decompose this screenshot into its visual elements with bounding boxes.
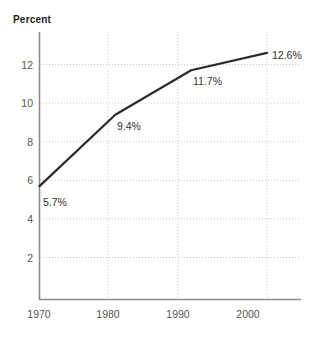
x-tick-label-1970: 1970 (19, 308, 59, 320)
y-tick-label-12: 12 (13, 59, 33, 71)
data-label-1990: 11.7% (193, 75, 222, 87)
x-tick-label-1990: 1990 (158, 308, 198, 320)
x-tick-label-1980: 1980 (88, 308, 128, 320)
y-tick-label-8: 8 (13, 136, 33, 148)
data-line (40, 53, 268, 186)
x-tick-label-2000: 2000 (228, 308, 268, 320)
data-label-1970: 5.7% (43, 196, 67, 208)
line-chart: Percent 12 10 8 6 4 2 1970 1980 1990 20 (0, 0, 319, 340)
y-tick-label-2: 2 (13, 252, 33, 264)
y-tick-label-4: 4 (13, 213, 33, 225)
data-label-2000: 12.6% (272, 49, 302, 61)
y-tick-label-6: 6 (13, 174, 33, 186)
horizontal-gridlines (40, 65, 300, 258)
y-tick-label-10: 10 (13, 97, 33, 109)
data-label-1980: 9.4% (117, 120, 141, 132)
